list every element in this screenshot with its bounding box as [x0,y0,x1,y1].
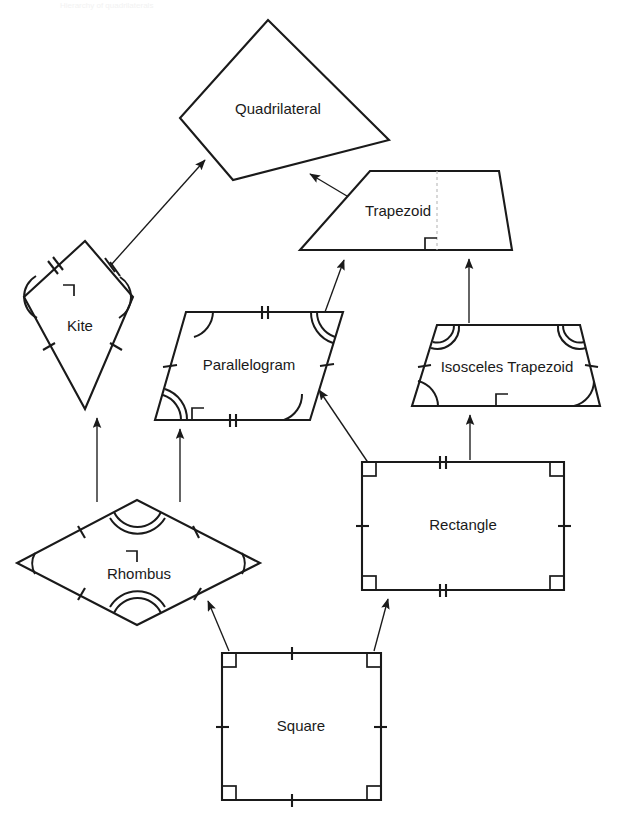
isosceles-trapezoid-label: Isosceles Trapezoid [441,358,574,375]
kite-label: Kite [67,317,93,334]
arrow-square-to-rectangle [374,599,388,651]
quadrilateral-hierarchy-diagram: Hierarchy of quadrilaterals Quadrilatera… [0,0,624,839]
shape-rhombus: Rhombus [17,500,260,625]
quadrilateral-label: Quadrilateral [235,100,321,117]
ghost-header-text: Hierarchy of quadrilaterals [60,1,153,10]
square-label: Square [277,717,325,734]
parallelogram-label: Parallelogram [203,356,296,373]
diagram-canvas: Hierarchy of quadrilaterals Quadrilatera… [0,0,624,839]
rhombus-label: Rhombus [107,565,171,582]
arrow-kite-to-quadrilateral [111,160,205,265]
trapezoid-label: Trapezoid [365,202,431,219]
shape-isosceles-trapezoid: Isosceles Trapezoid [412,325,600,406]
arrow-parallelogram-to-trapezoid [325,260,344,312]
shape-rectangle: Rectangle [356,456,571,597]
shape-trapezoid: Trapezoid [300,171,512,250]
rectangle-label: Rectangle [429,516,497,533]
shape-kite: Kite [24,241,133,409]
arrow-rectangle-to-parallelogram [319,390,369,464]
shape-quadrilateral: Quadrilateral [180,20,389,180]
arrow-square-to-rhombus [208,601,229,651]
shape-square: Square [216,647,387,807]
rhombus-outline [17,500,260,625]
shape-parallelogram: Parallelogram [155,306,343,427]
